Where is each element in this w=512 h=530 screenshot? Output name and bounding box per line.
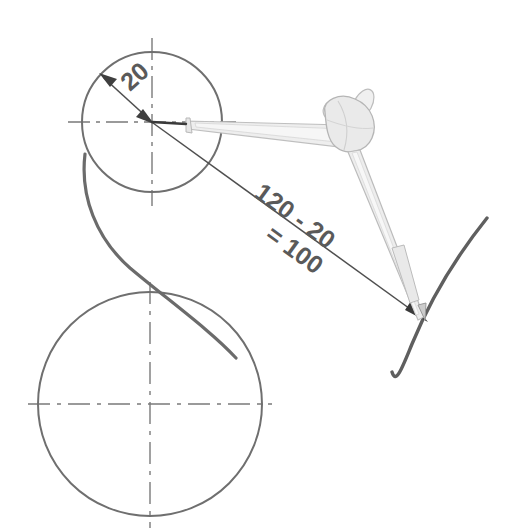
compass-pencil-leg — [348, 150, 426, 320]
compass-drawn-arc — [392, 218, 487, 376]
compass-lead-holder — [392, 245, 419, 303]
compass-needle-collar — [186, 118, 192, 133]
technical-drawing-canvas: 20 120 - 20 = 100 — [0, 0, 512, 530]
compass-needle-tip — [152, 122, 186, 124]
radius-dimension-20: 20 — [99, 56, 154, 124]
lower-circle-centerlines — [28, 282, 272, 528]
reverse-curve-tangent — [84, 154, 236, 358]
technical-drawing-page: 20 120 - 20 = 100 — [0, 0, 512, 530]
radius-dimension-label: 20 — [115, 56, 154, 95]
